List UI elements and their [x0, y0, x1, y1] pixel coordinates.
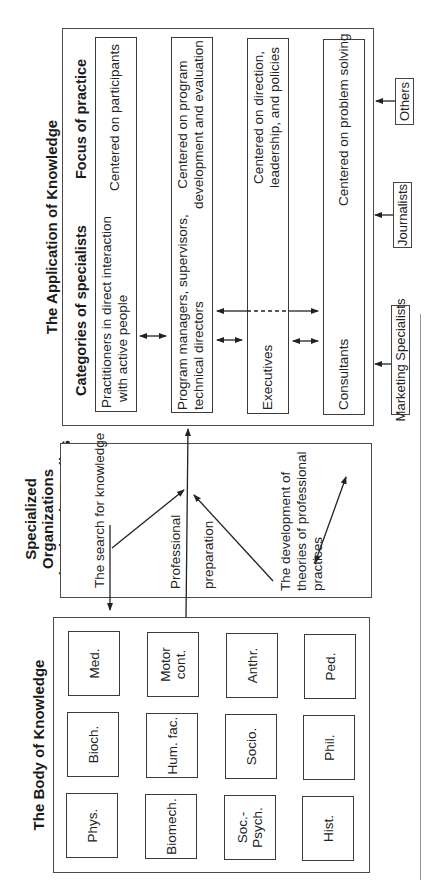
body-of-knowledge-title: The Body of Knowledge: [30, 617, 47, 873]
external-journalists: Journalists: [393, 182, 412, 248]
focus-line: Centered on program: [175, 40, 191, 209]
external-others: Others: [395, 78, 414, 125]
theories-label: The development of theories of professio…: [278, 451, 326, 591]
focus-problem-solving: Centered on problem solving: [336, 33, 352, 206]
focus-line: development and evaluation: [191, 40, 207, 209]
external-marketing-specialists: Marketing Specialists: [391, 305, 410, 415]
categories-header: Categories of specialists: [73, 225, 89, 396]
discipline-motor-cont: Motor cont.: [147, 632, 199, 697]
page-edge-rule: [420, 314, 421, 880]
category-consultants: Consultants: [336, 339, 352, 410]
diagram-stage: The Body of Knowledge Phys. Bioch. Med. …: [0, 0, 426, 896]
theories-line1: The development of: [278, 451, 294, 591]
specialized-title-line1: Specialized Organizations: [22, 434, 56, 604]
discipline-hist: Hist.: [302, 796, 354, 861]
discipline-ped: Ped.: [304, 634, 356, 699]
category-line: Program managers, supervisors,: [175, 214, 191, 410]
focus-line: leadership, and policies: [267, 47, 283, 188]
category-program-managers: Program managers, supervisors, technical…: [175, 214, 207, 410]
category-line: technical directors: [191, 214, 207, 410]
discipline-hum-fac: Hum. fac.: [146, 713, 198, 778]
focus-line: Centered on direction,: [251, 47, 267, 188]
category-line: Practitioners in direct interaction: [99, 216, 115, 408]
category-practitioners: Practitioners in direct interaction with…: [99, 216, 131, 408]
discipline-med: Med.: [68, 631, 120, 696]
discipline-socio: Socio.: [225, 714, 277, 779]
discipline-soc-psych: Soc.-Psych.: [224, 795, 276, 860]
discipline-biomech: Biomech.: [145, 794, 197, 859]
preparation-label: preparation: [201, 521, 217, 589]
application-title: The Application of Knowledge: [43, 28, 60, 426]
discipline-phil: Phil.: [303, 715, 355, 780]
theories-line3: practices: [310, 451, 326, 591]
discipline-phys: Phys.: [66, 793, 118, 858]
search-for-knowledge-label: The search for knowledge: [92, 433, 108, 588]
focus-direction: Centered on direction, leadership, and p…: [251, 47, 283, 188]
professional-label: Professional: [168, 515, 184, 589]
focus-program-development: Centered on program development and eval…: [175, 40, 207, 209]
theories-line2: theories of professional: [294, 451, 310, 591]
category-line: with active people: [115, 216, 131, 408]
discipline-bioch: Bioch.: [67, 712, 119, 777]
focus-participants: Centered on participants: [107, 44, 123, 191]
focus-header: Focus of practice: [73, 59, 89, 179]
discipline-anthr: Anthr.: [226, 633, 278, 698]
category-executives: Executives: [260, 345, 276, 410]
